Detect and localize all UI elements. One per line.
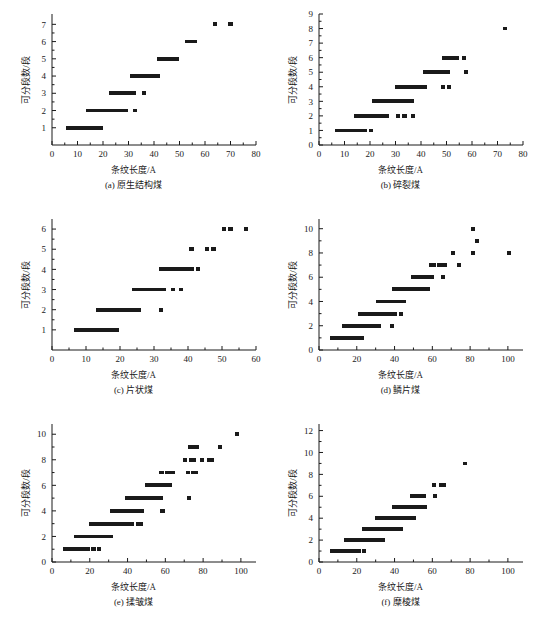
data-point <box>418 494 422 498</box>
data-point <box>432 263 436 267</box>
data-series <box>66 22 232 129</box>
data-point <box>71 547 75 551</box>
data-point <box>426 287 430 291</box>
x-tick-label: 60 <box>468 149 478 159</box>
data-point <box>348 538 352 542</box>
data-point <box>105 535 109 539</box>
data-point <box>400 287 404 291</box>
data-series <box>74 227 248 332</box>
y-axis-label: 可分段数/段 <box>19 469 32 517</box>
data-point <box>381 527 385 531</box>
y-tick-label: 10 <box>304 448 314 458</box>
y-tick-label: 6 <box>309 272 314 282</box>
data-point <box>402 300 406 304</box>
x-tick-label: 40 <box>184 354 194 364</box>
panel-b: 010203040506070800123456789 可分段数/段条纹长度/Å… <box>267 0 534 205</box>
data-point <box>341 549 345 553</box>
data-point <box>359 336 363 340</box>
data-point <box>78 547 82 551</box>
y-tick-label: 4 <box>309 513 314 523</box>
data-point <box>133 496 137 500</box>
data-point <box>455 56 459 60</box>
data-point <box>205 247 209 251</box>
data-point <box>423 85 427 89</box>
data-point <box>89 522 93 526</box>
x-tick-label: 60 <box>428 566 438 576</box>
x-tick-label: 10 <box>340 149 350 159</box>
data-point <box>370 527 374 531</box>
data-point <box>359 538 363 542</box>
x-tick-label: 40 <box>390 566 400 576</box>
y-tick-label: 5 <box>309 67 314 77</box>
data-point <box>144 496 148 500</box>
data-point <box>91 547 95 551</box>
data-point <box>377 312 381 316</box>
data-point <box>133 109 137 113</box>
data-point <box>363 129 367 133</box>
data-point <box>193 40 197 44</box>
data-point <box>471 251 475 255</box>
data-point <box>376 324 380 328</box>
data-point <box>141 496 145 500</box>
x-tick-label: 60 <box>161 566 171 576</box>
x-tick-label: 40 <box>417 149 427 159</box>
data-point <box>119 522 123 526</box>
data-point <box>142 91 146 95</box>
data-point <box>164 483 168 487</box>
y-tick-label: 2 <box>309 111 314 121</box>
data-point <box>118 509 122 513</box>
data-point <box>342 324 346 328</box>
data-point <box>411 505 415 509</box>
x-tick-label: 20 <box>99 149 109 159</box>
data-point <box>464 70 468 74</box>
data-point <box>503 27 507 31</box>
x-tick-label: 0 <box>50 149 55 159</box>
data-point <box>108 522 112 526</box>
data-point <box>330 549 334 553</box>
data-point <box>419 287 423 291</box>
data-point <box>350 324 354 328</box>
data-point <box>160 509 164 513</box>
x-tick-label: 50 <box>218 354 228 364</box>
x-tick-label: 40 <box>123 566 133 576</box>
axis-lines <box>319 14 523 145</box>
data-point <box>402 516 406 520</box>
x-tick-label: 20 <box>352 354 362 364</box>
y-tick-label: 8 <box>309 248 314 258</box>
data-point <box>366 527 370 531</box>
y-tick-label: 3 <box>309 97 314 107</box>
data-point <box>391 516 395 520</box>
data-point <box>115 522 119 526</box>
data-point <box>432 483 436 487</box>
data-point <box>345 549 349 553</box>
data-series <box>335 27 508 133</box>
data-point <box>370 312 374 316</box>
data-point <box>63 547 67 551</box>
data-point <box>334 549 338 553</box>
x-tick-label: 60 <box>428 354 438 364</box>
data-point <box>404 505 408 509</box>
data-point <box>101 535 105 539</box>
y-tick-label: 5 <box>42 54 47 64</box>
data-point <box>410 494 414 498</box>
data-point <box>389 312 393 316</box>
x-tick-label: 0 <box>50 354 55 364</box>
data-point <box>122 509 126 513</box>
data-point <box>345 336 349 340</box>
data-point <box>373 324 377 328</box>
data-point <box>108 535 112 539</box>
data-point <box>114 509 118 513</box>
data-point <box>369 324 373 328</box>
data-point <box>384 300 388 304</box>
data-point <box>475 239 479 243</box>
x-tick-label: 70 <box>493 149 503 159</box>
data-point <box>210 458 214 462</box>
data-point <box>365 324 369 328</box>
data-point <box>392 300 396 304</box>
data-point <box>362 312 366 316</box>
data-point <box>110 509 114 513</box>
data-point <box>137 496 141 500</box>
y-axis-label: 可分段数/段 <box>19 56 32 104</box>
x-tick-label: 80 <box>519 149 529 159</box>
data-point <box>415 505 419 509</box>
